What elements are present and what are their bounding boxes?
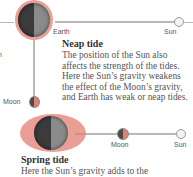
moon-neap-icon [29,96,40,108]
left-text-fragment: n [0,51,2,58]
earth-sun-line [55,21,175,23]
moon-label-spring: Moon [111,141,129,148]
spring-tide-description: Here the Sun’s gravity adds to the [21,166,193,177]
left-orbit-line-stub [0,22,14,23]
moon-spring-icon [117,128,129,140]
spring-tide-title: Spring tide [21,154,69,165]
sun-label-spring: Sun [174,141,186,148]
sun-spring-icon [176,129,186,139]
earth-moon-line [33,40,35,100]
sun-neap-icon [174,17,184,27]
moon-label-neap: Moon [3,98,21,105]
earth-spring-icon [34,116,68,150]
earth-neap-icon [18,3,50,37]
neap-tide-description: The position of the Sun also affects the… [62,50,192,103]
sun-label-neap: Sun [164,28,176,35]
neap-tide-title: Neap tide [62,38,103,49]
earth-label: Earth [53,28,70,35]
